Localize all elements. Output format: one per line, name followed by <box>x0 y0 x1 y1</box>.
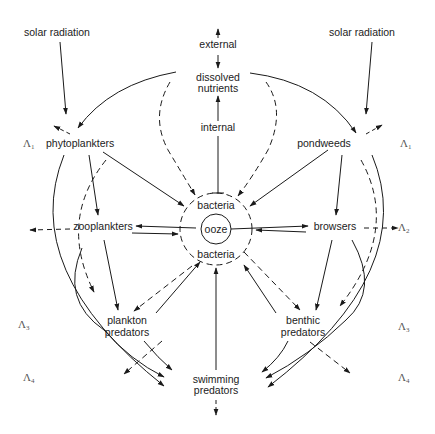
arrow-nutrients-to-pondweeds <box>250 73 356 133</box>
arrow-ooze-to-browsers <box>231 226 308 229</box>
arrow-ooze-to-zoo <box>136 226 196 228</box>
arrow-zoo-to-plankton-pred <box>104 240 118 310</box>
arrow-nutrients-to-phyto <box>78 72 176 128</box>
arc-pondweeds-to-swimming <box>268 155 384 387</box>
external-label: external <box>199 38 236 50</box>
svg-text:Λ: Λ <box>400 137 408 149</box>
svg-text:Λ: Λ <box>23 371 31 383</box>
svg-text:Λ: Λ <box>23 137 31 149</box>
plankton-label: plankton <box>107 314 147 326</box>
lambda-1-left: Λ 1 <box>23 137 35 151</box>
lambda-3-right: Λ 3 <box>398 320 410 334</box>
svg-text:4: 4 <box>406 377 410 385</box>
solar-radiation-left-label: solar radiation <box>24 26 90 38</box>
respiration-zoo <box>30 229 70 230</box>
respiration-pondweeds <box>366 125 382 134</box>
benthic-predators-label: predators <box>281 326 325 338</box>
arrow-zoo-to-bacteria <box>132 233 178 234</box>
food-web-diagram: solar radiation solar radiation external… <box>0 0 435 434</box>
solar-radiation-right-label: solar radiation <box>329 26 395 38</box>
arrow-pondweeds-to-browsers <box>336 155 342 215</box>
internal-label: internal <box>201 121 235 133</box>
arrow-benthic-pred-to-bacteria <box>244 265 276 313</box>
respiration-phyto <box>54 126 70 134</box>
dashed-nutrients-to-bacteria-left <box>159 82 195 195</box>
arrow-pondweeds-to-bacteria <box>250 150 328 206</box>
svg-text:Λ: Λ <box>18 318 26 330</box>
svg-text:3: 3 <box>406 326 410 334</box>
benthic-label: benthic <box>286 314 320 326</box>
lambda-3-left: Λ 3 <box>18 318 30 332</box>
lambda-4-right: Λ 4 <box>398 371 410 385</box>
dashed-nutrients-to-bacteria-right <box>238 82 277 196</box>
swimming-predators-label: predators <box>194 384 238 396</box>
nutrients-label: nutrients <box>198 82 238 94</box>
arc-plankton-pred-to-swimming <box>144 341 172 370</box>
pondweeds-label: pondweeds <box>297 137 351 149</box>
bacteria-bottom-label: bacteria <box>197 248 235 260</box>
bacteria-top-label: bacteria <box>197 199 235 211</box>
phytoplankters-label: phytoplankters <box>46 137 114 149</box>
arc-zoo-to-swimming <box>75 248 164 377</box>
arc-phyto-to-swimming <box>53 155 164 386</box>
arrow-browsers-to-benthic-pred <box>316 240 332 310</box>
plankton-predators-label: predators <box>105 326 149 338</box>
svg-text:1: 1 <box>31 143 35 151</box>
arrow-plankton-pred-to-bacteria <box>156 262 200 313</box>
svg-text:Λ: Λ <box>398 320 406 332</box>
arrow-solar-to-pondweeds <box>366 42 372 114</box>
zooplankters-label: zooplankters <box>73 220 133 232</box>
svg-text:Λ: Λ <box>398 371 406 383</box>
svg-text:2: 2 <box>406 227 410 235</box>
lambda-4-left: Λ 4 <box>23 371 35 385</box>
ooze-label: ooze <box>205 223 228 235</box>
lambda-1-right: Λ 1 <box>400 137 412 151</box>
dashed-bacteria-to-benthic-pred <box>244 252 300 310</box>
svg-text:3: 3 <box>26 324 30 332</box>
arc-browsers-to-swimming <box>266 240 365 378</box>
arrow-browsers-to-bacteria <box>256 230 306 232</box>
arrow-phyto-to-zoo <box>89 155 98 215</box>
lambda-2-right: Λ 2 <box>398 221 410 235</box>
arrow-phyto-to-bacteria <box>103 152 184 206</box>
dashed-arc-pondweeds-right <box>340 160 376 306</box>
svg-text:1: 1 <box>408 143 412 151</box>
svg-text:4: 4 <box>31 377 35 385</box>
svg-text:Λ: Λ <box>398 221 406 233</box>
arrow-solar-to-phyto <box>60 42 66 114</box>
browsers-label: browsers <box>314 220 357 232</box>
respiration-benthic-pred <box>310 342 350 373</box>
